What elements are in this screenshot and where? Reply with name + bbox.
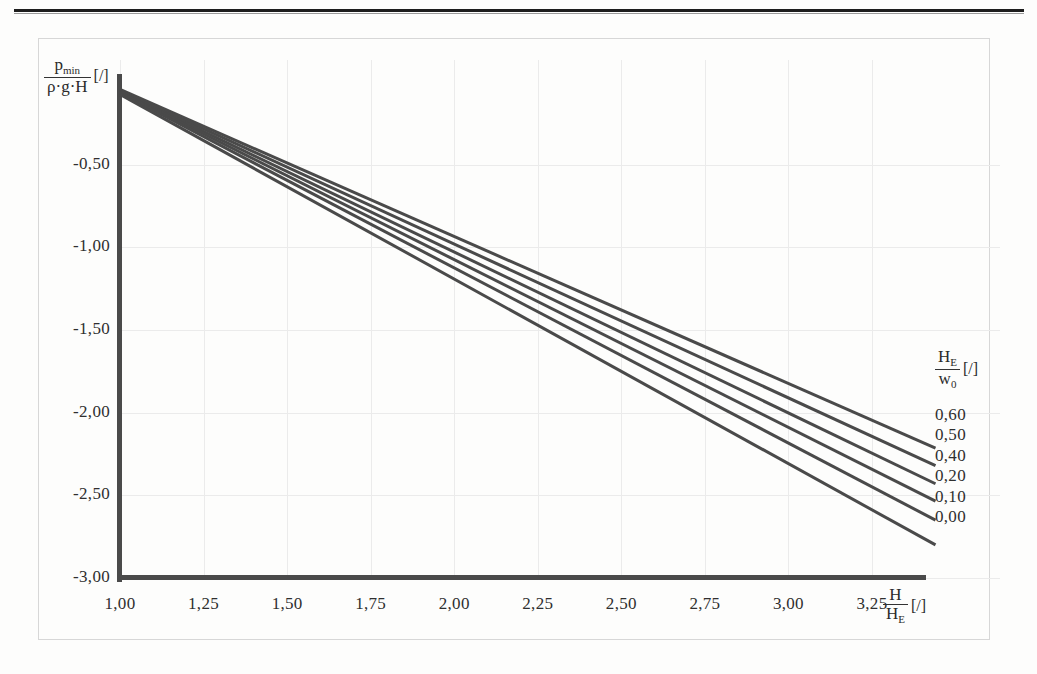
gridline-vertical [872,60,873,578]
legend-item: 0,00 [935,507,1035,528]
gridline-horizontal [120,413,1000,414]
y-axis-title-denominator: ρ·g·H [44,77,91,96]
data-line-0-20 [120,92,936,501]
gridline-vertical [538,60,539,578]
data-line-0-40 [120,91,936,484]
x-axis-title-unit: [/] [908,597,926,614]
data-curves [0,0,1037,674]
legend-value-list: 0,600,500,400,200,100,00 [935,405,1035,528]
legend-item: 0,40 [935,446,1035,467]
legend-title-numerator: HE [935,348,960,369]
gridline-vertical [621,60,622,578]
x-axis-title-denominator: HE [883,604,908,626]
gridline-vertical [287,60,288,578]
x-axis-title-fraction: H HE [883,586,908,626]
gridline-vertical [705,60,706,578]
legend-title: HE w0 [/] [935,348,1035,391]
y-tick-label: -1,50 [38,319,110,339]
legend-title-denominator: w0 [935,369,960,391]
gridline-vertical [371,60,372,578]
legend-title-fraction: HE w0 [935,348,960,391]
y-tick-label: -2,50 [38,484,110,504]
gridline-horizontal [120,247,1000,248]
y-tick-label: -1,00 [38,236,110,256]
y-axis-title-unit: [/] [91,67,109,84]
legend: HE w0 [/] 0,600,500,400,200,100,00 [935,348,1035,528]
x-tick-label: 2,00 [419,594,489,614]
x-tick-label: 2,75 [670,594,740,614]
x-axis-title-numerator: H [883,586,908,604]
chart-plot-area: -0,50-1,00-1,50-2,00-2,50-3,00 1,001,251… [0,0,1037,674]
gridline-horizontal [120,495,1000,496]
gridline-vertical [204,60,205,578]
x-tick-label: 2,25 [503,594,573,614]
gridline-vertical [454,60,455,578]
x-axis-line [117,575,926,580]
y-axis-line [117,74,122,582]
x-tick-label: 1,00 [85,594,155,614]
y-axis-title-numerator: pmin [44,56,91,77]
legend-title-unit: [/] [960,360,978,377]
gridline-vertical [788,60,789,578]
y-axis-title-fraction: pmin ρ·g·H [44,56,91,96]
data-line-0-50 [120,90,936,465]
data-line-0-00 [120,94,936,545]
legend-item: 0,50 [935,425,1035,446]
y-tick-label: -3,00 [38,567,110,587]
data-line-0-60 [120,89,936,448]
y-axis-title: pmin ρ·g·H [/] [44,56,109,96]
x-axis-title: H HE [/] [883,586,926,626]
legend-item: 0,20 [935,466,1035,487]
data-line-0-10 [120,93,936,520]
gridline-horizontal [120,165,1000,166]
x-tick-label: 2,50 [586,594,656,614]
y-tick-label: -0,50 [38,154,110,174]
x-tick-label: 1,25 [169,594,239,614]
gridline-horizontal [120,330,1000,331]
legend-item: 0,60 [935,405,1035,426]
legend-item: 0,10 [935,487,1035,508]
x-tick-label: 1,75 [336,594,406,614]
x-tick-label: 1,50 [252,594,322,614]
y-tick-label: -2,00 [38,402,110,422]
x-tick-label: 3,00 [753,594,823,614]
